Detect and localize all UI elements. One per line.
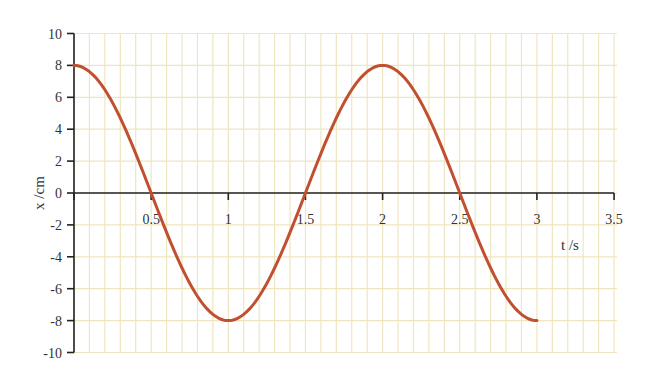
x-tick-label: 3.5 [605, 212, 623, 227]
y-tick-label: -4 [50, 250, 62, 265]
x-tick-label: 1 [225, 212, 232, 227]
y-axis-ticks: 1086420-2-4-6-8-10 [43, 27, 74, 361]
axes [74, 34, 614, 353]
y-axis-label: x /cm [31, 176, 47, 210]
x-tick-label: 2.5 [451, 212, 469, 227]
x-tick-label: 0.5 [142, 212, 160, 227]
x-tick-label: 1.5 [297, 212, 315, 227]
y-tick-label: 10 [48, 27, 62, 42]
y-tick-label: 6 [55, 90, 62, 105]
y-tick-label: 8 [55, 58, 62, 73]
y-tick-label: -6 [50, 282, 62, 297]
x-tick-label: 3 [533, 212, 540, 227]
y-tick-label: 4 [55, 122, 62, 137]
y-tick-label: -10 [43, 346, 62, 361]
displacement-time-chart: 1086420-2-4-6-8-10 0.511.522.533.5 x /cm… [0, 0, 652, 382]
x-axis-label: t /s [561, 237, 579, 253]
y-tick-label: -8 [50, 314, 62, 329]
x-tick-label: 2 [379, 212, 386, 227]
y-tick-label: 0 [55, 186, 62, 201]
y-tick-label: 2 [55, 154, 62, 169]
y-tick-label: -2 [50, 218, 62, 233]
